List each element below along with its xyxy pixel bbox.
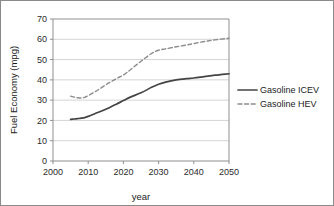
- y-tick-label-0: 0: [42, 156, 47, 166]
- x-tick-label-2010: 2010: [78, 167, 98, 177]
- chart-canvas: 010203040506070 200020102020203020402050…: [1, 1, 334, 206]
- legend-label-gasoline-hev: Gasoline HEV: [260, 99, 317, 109]
- y-axis-tick-labels: 010203040506070: [37, 14, 53, 166]
- x-tick-label-2040: 2040: [184, 167, 204, 177]
- axes: [53, 19, 229, 161]
- y-tick-label-40: 40: [37, 75, 47, 85]
- legend-item-gasoline-hev: Gasoline HEV: [238, 99, 317, 109]
- fuel-economy-chart-figure: 010203040506070 200020102020203020402050…: [0, 0, 334, 206]
- y-tick-label-20: 20: [37, 116, 47, 126]
- legend-label-gasoline-icev: Gasoline ICEV: [260, 85, 319, 95]
- chart-legend: Gasoline ICEV Gasoline HEV: [238, 85, 319, 109]
- y-axis-title: Fuel Economy (mpg): [8, 46, 19, 134]
- y-tick-label-70: 70: [37, 14, 47, 24]
- y-tick-label-60: 60: [37, 34, 47, 44]
- gridlines: [53, 39, 229, 140]
- y-tick-label-30: 30: [37, 95, 47, 105]
- data-series: [71, 38, 229, 119]
- legend-item-gasoline-icev: Gasoline ICEV: [238, 85, 319, 95]
- x-tick-label-2050: 2050: [219, 167, 239, 177]
- x-tick-label-2030: 2030: [149, 167, 169, 177]
- y-tick-label-50: 50: [37, 55, 47, 65]
- x-tick-label-2020: 2020: [113, 167, 133, 177]
- series-line-gasoline-icev: [71, 74, 229, 120]
- x-axis-title: year: [132, 191, 150, 202]
- y-tick-label-10: 10: [37, 136, 47, 146]
- x-tick-label-2000: 2000: [43, 167, 63, 177]
- x-axis-tick-labels: 200020102020203020402050: [43, 161, 239, 177]
